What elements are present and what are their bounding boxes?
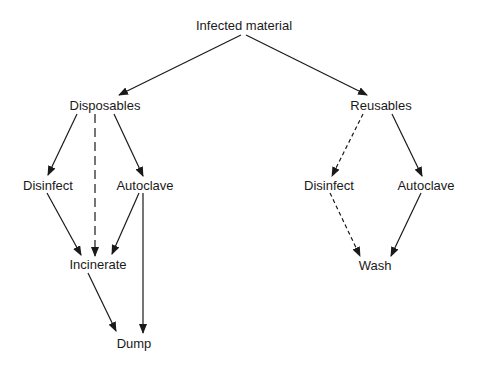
node-disposables: Disposables bbox=[70, 98, 141, 113]
node-disposables-disinfect: Disinfect bbox=[23, 178, 73, 193]
edge-root-disposables bbox=[119, 35, 241, 95]
edge-incinerate-dump bbox=[88, 273, 116, 331]
edge-root-reusables bbox=[246, 35, 367, 95]
edge-autoclave-incinerate bbox=[112, 193, 139, 254]
edge-disposables-autoclave bbox=[114, 114, 143, 176]
node-reusables: Reusables bbox=[350, 98, 411, 113]
edge-autoclave-wash bbox=[391, 193, 421, 256]
edge-reusables-autoclave bbox=[392, 114, 422, 176]
edge-reusables-disinfect bbox=[332, 114, 363, 176]
node-infected-material: Infected material bbox=[196, 18, 292, 33]
node-wash: Wash bbox=[359, 258, 392, 273]
node-reusables-autoclave: Autoclave bbox=[397, 178, 454, 193]
node-disposables-autoclave: Autoclave bbox=[116, 178, 173, 193]
node-incinerate: Incinerate bbox=[69, 257, 126, 272]
edge-disposables-disinfect bbox=[48, 114, 77, 175]
edge-disinfect-wash bbox=[330, 193, 360, 256]
edge-disinfect-incinerate bbox=[47, 193, 81, 255]
node-reusables-disinfect: Disinfect bbox=[304, 178, 354, 193]
node-dump: Dump bbox=[117, 336, 152, 351]
